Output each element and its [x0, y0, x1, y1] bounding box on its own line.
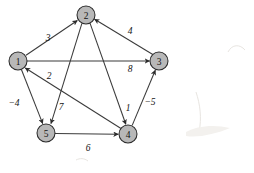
- node-3[interactable]: 3: [150, 52, 168, 70]
- edge-5-4: [55, 134, 118, 135]
- edge-weight-1-2: 3: [45, 33, 51, 43]
- edge-3-2: [95, 19, 153, 54]
- edge-4-1: [25, 68, 121, 129]
- edge-weight-2-4: 1: [126, 103, 131, 113]
- node-5[interactable]: 5: [37, 124, 55, 142]
- edge-1-2: [26, 21, 77, 56]
- node-4[interactable]: 4: [119, 125, 137, 143]
- edge-weight-4-3: −5: [144, 97, 155, 107]
- node-1-label: 1: [16, 57, 21, 67]
- edge-weight-1-5: −4: [8, 98, 19, 108]
- node-5-label: 5: [44, 129, 49, 139]
- edge-weight-3-2: 4: [128, 26, 133, 36]
- edge-weight-5-4: 6: [86, 143, 91, 153]
- edge-1-5: [22, 70, 43, 124]
- edge-2-4: [90, 23, 126, 124]
- node-2[interactable]: 2: [77, 6, 95, 24]
- node-3-label: 3: [157, 57, 162, 67]
- edge-group: [22, 19, 156, 134]
- node-group: 1 2 3 4 5: [9, 6, 168, 143]
- edge-2-5: [51, 23, 82, 123]
- edge-weight-4-1: 2: [47, 71, 52, 81]
- edge-weight-2-5: 7: [59, 102, 65, 112]
- graph-canvas: 3 8 −4 7 1 4 2 −5 6 1 2 3: [0, 0, 254, 173]
- edge-weight-1-3: 8: [128, 64, 133, 74]
- graph-figure: 3 8 −4 7 1 4 2 −5 6 1 2 3: [0, 0, 254, 173]
- node-4-label: 4: [126, 130, 131, 140]
- node-1[interactable]: 1: [9, 52, 27, 70]
- node-2-label: 2: [84, 11, 89, 21]
